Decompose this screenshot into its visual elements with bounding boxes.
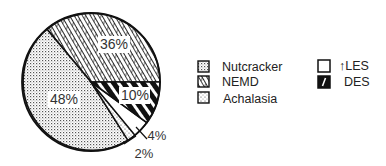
pie-chart: 36% 48% 10% 4% 2% Nutcracker NEMD Achala… [0, 0, 386, 166]
legend-swatch-les [318, 60, 330, 72]
legend-label-les: ↑LES [339, 59, 369, 73]
label-des: 10% [121, 87, 149, 103]
legend-swatch-nemd [198, 76, 209, 87]
legend-swatch-achalasia [198, 92, 209, 103]
label-nutcracker: 48% [50, 91, 78, 107]
label-nemd: 36% [100, 36, 128, 52]
legend-label-des: DES [344, 75, 370, 89]
legend-label-achalasia: Achalasia [223, 92, 277, 106]
legend-swatch-nutcracker [198, 61, 209, 72]
label-achalasia: 2% [135, 146, 154, 161]
legend-label-nutcracker: Nutcracker [222, 60, 282, 74]
label-les: 4% [148, 128, 167, 143]
legend-label-nemd: NEMD [222, 75, 259, 89]
